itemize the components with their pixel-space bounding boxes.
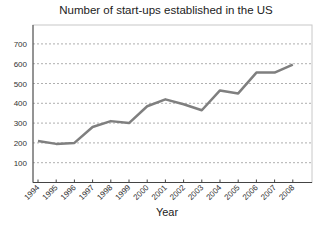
x-tick-label: 1998 bbox=[95, 183, 114, 202]
y-tick-label: 100 bbox=[14, 159, 28, 168]
y-axis-ticks: 100200300400500600700 bbox=[14, 40, 28, 168]
x-tick-label: 2004 bbox=[204, 183, 223, 202]
x-tick-label: 2007 bbox=[259, 183, 278, 202]
x-tick-label: 2003 bbox=[186, 183, 205, 202]
y-tick-label: 700 bbox=[14, 40, 28, 49]
y-tick-label: 600 bbox=[14, 60, 28, 69]
y-tick-label: 300 bbox=[14, 119, 28, 128]
x-tick-label: 1997 bbox=[77, 183, 96, 202]
chart-title: Number of start-ups established in the U… bbox=[59, 4, 273, 16]
x-tick-label: 2001 bbox=[150, 183, 169, 202]
gridlines bbox=[33, 44, 312, 163]
x-tick-label: 1999 bbox=[113, 183, 132, 202]
line-chart: Number of start-ups established in the U… bbox=[0, 0, 328, 229]
x-tick-label: 2005 bbox=[223, 183, 242, 202]
y-tick-label: 400 bbox=[14, 99, 28, 108]
plot-area-border bbox=[33, 25, 312, 183]
x-tick-label: 1995 bbox=[41, 183, 60, 202]
y-tick-label: 500 bbox=[14, 80, 28, 89]
x-axis-label: Year bbox=[156, 206, 179, 218]
x-tick-label: 2000 bbox=[132, 183, 151, 202]
data-line-start-ups bbox=[38, 65, 293, 144]
x-tick-label: 2006 bbox=[241, 183, 260, 202]
x-tick-label: 1994 bbox=[22, 183, 41, 202]
x-tick-label: 1996 bbox=[59, 183, 78, 202]
x-tick-label: 2002 bbox=[168, 183, 187, 202]
x-tick-label: 2008 bbox=[277, 183, 296, 202]
y-tick-label: 200 bbox=[14, 139, 28, 148]
